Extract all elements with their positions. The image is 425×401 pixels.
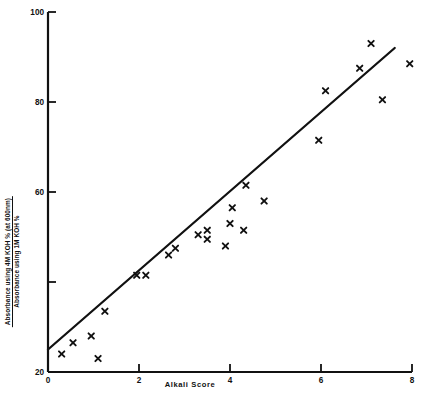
- data-point-marker: [368, 41, 373, 46]
- data-point-marker: [205, 228, 210, 233]
- y-axis-label-numerator: Absorbance using 4M KOH % (at 600nm): [4, 196, 13, 327]
- x-axis-label: Alkali Score: [165, 380, 216, 389]
- y-tick-label: 60: [35, 188, 45, 197]
- data-point-marker: [223, 243, 228, 248]
- data-point-marker: [227, 221, 232, 226]
- data-point-marker: [407, 61, 412, 66]
- data-point-marker: [316, 138, 321, 143]
- data-point-marker: [70, 340, 75, 345]
- data-point-marker: [173, 246, 178, 251]
- data-point-marker: [195, 232, 200, 237]
- data-point-markers: [59, 41, 412, 361]
- x-tick-label: 0: [46, 376, 51, 385]
- data-point-marker: [323, 88, 328, 93]
- data-point-marker: [357, 66, 362, 71]
- data-point-marker: [166, 252, 171, 257]
- data-point-marker: [230, 205, 235, 210]
- data-point-marker: [95, 356, 100, 361]
- scatter-plot-figure: Absorbance using 4M KOH % (at 600nm) Abs…: [0, 0, 425, 401]
- data-point-marker: [243, 183, 248, 188]
- x-tick-label: 2: [137, 376, 142, 385]
- regression-line-segment: [48, 48, 395, 350]
- regression-line: [48, 48, 395, 350]
- x-tick-label: 6: [319, 376, 324, 385]
- data-point-marker: [143, 273, 148, 278]
- data-point-marker: [89, 333, 94, 338]
- y-axis-label-fraction: Absorbance using 4M KOH % (at 600nm) Abs…: [4, 196, 21, 327]
- data-point-marker: [102, 309, 107, 314]
- data-point-marker: [59, 351, 64, 356]
- data-point-marker: [380, 97, 385, 102]
- plot-canvas: 206080100 02468 Alkali Score: [0, 0, 425, 401]
- x-tick-label: 4: [228, 376, 233, 385]
- x-tick-label: 8: [410, 376, 415, 385]
- y-axis-label-denominator: Absorbance using 1M KOH %: [13, 196, 21, 327]
- y-axis-ticks: 206080100: [30, 8, 56, 377]
- data-point-marker: [205, 237, 210, 242]
- y-tick-label: 100: [30, 8, 44, 17]
- y-tick-label: 20: [35, 368, 45, 377]
- data-point-marker: [241, 228, 246, 233]
- x-axis-ticks: 02468: [46, 364, 415, 385]
- y-tick-label: 80: [35, 98, 45, 107]
- data-point-marker: [261, 198, 266, 203]
- y-axis-label: Absorbance using 4M KOH % (at 600nm) Abs…: [4, 196, 23, 327]
